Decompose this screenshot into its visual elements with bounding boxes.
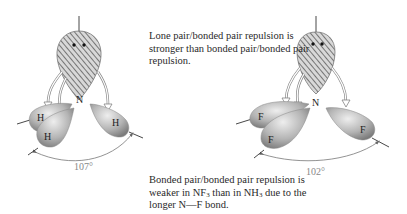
caption-text: than in NH [210,187,259,198]
ligand-label: F [268,134,274,145]
ligand-label: F [360,124,366,135]
ligand-label: F [258,111,264,122]
bond-angle-label: 107° [74,161,93,172]
bonded-pair-caption: Bonded pair/bonded pair repulsion is wea… [149,174,324,212]
bond-lobe-f-right [326,108,375,140]
lone-pair-caption: Lone pair/bonded pair repulsion is stron… [149,30,314,68]
bond-lobe-h-right [90,104,129,137]
lone-pair-lobe [57,31,101,100]
nh3-molecule: N H H H 107° [17,16,143,172]
ligand-label: H [44,131,51,142]
ligand-label: H [112,117,119,128]
central-atom-label: N [312,97,319,108]
electron-dot [72,43,75,46]
central-atom-label: N [76,94,83,105]
electron-dot [82,43,85,46]
electron-dot [320,42,323,45]
